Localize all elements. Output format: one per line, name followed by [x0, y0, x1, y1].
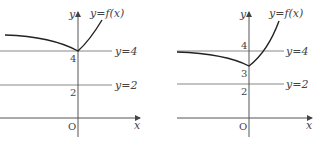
right-x-axis-label: x — [306, 119, 313, 132]
right-origin-label: O — [239, 121, 247, 132]
left-origin-label: O — [68, 121, 76, 132]
left-y2-label: y=2 — [114, 79, 137, 92]
left-function-curve — [5, 20, 102, 51]
right-function-curve — [177, 21, 279, 66]
left-graph: y y=f(x) y=4 y=2 4 2 O x — [0, 7, 141, 137]
left-y4-label: y=4 — [114, 45, 137, 58]
left-tick-4: 4 — [70, 53, 76, 64]
graphs-canvas: y y=f(x) y=4 y=2 4 2 O x y y=f(x) y=4 y=… — [0, 0, 323, 147]
right-tick-4: 4 — [241, 40, 247, 51]
left-function-label: y=f(x) — [89, 7, 124, 20]
right-graph: y y=f(x) y=4 y=2 4 3 2 O x — [177, 7, 313, 137]
right-y4-label: y=4 — [285, 45, 308, 58]
right-y2-label: y=2 — [285, 78, 308, 91]
right-tick-3: 3 — [241, 68, 247, 79]
left-tick-2: 2 — [70, 87, 76, 98]
left-x-axis-label: x — [134, 119, 141, 132]
right-y-axis-label: y — [239, 8, 247, 21]
left-y-axis-label: y — [68, 8, 76, 21]
right-tick-2: 2 — [241, 86, 247, 97]
right-function-label: y=f(x) — [268, 7, 303, 20]
